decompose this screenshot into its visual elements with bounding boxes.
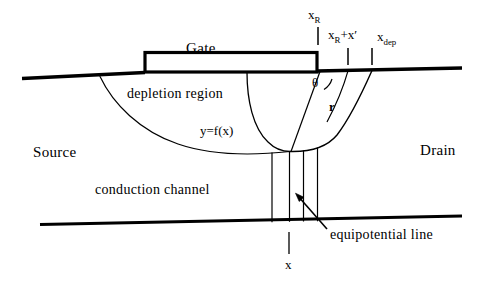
substrate-line — [40, 216, 462, 225]
x-R-subscript: R — [315, 15, 321, 25]
conduction-channel-label: conduction channel — [95, 183, 210, 197]
radius-label: r — [329, 100, 335, 113]
equipotential-line-label: equipotential line — [330, 228, 433, 242]
drain-label: Drain — [420, 143, 456, 158]
x-R-plus-x-prime-label: xR+x′ — [328, 28, 357, 44]
theta-angle-arc — [324, 79, 332, 90]
x-R-plus-suffix: +x′ — [340, 27, 357, 42]
curve-equation-label: y=f(x) — [200, 124, 233, 137]
figure-root: Gate depletion region y=f(x) Source Drai… — [0, 0, 494, 281]
depletion-region-label: depletion region — [127, 87, 223, 101]
equipotential-pointer-arrow — [296, 193, 328, 229]
x-position-label: x — [285, 258, 292, 271]
depletion-boundary-inner — [247, 73, 290, 152]
surface-line-left — [22, 73, 145, 79]
x-dep-subscript: dep — [384, 37, 397, 47]
gate-label: Gate — [186, 41, 216, 56]
x-dep-label: xdep — [377, 30, 396, 46]
source-label: Source — [33, 145, 76, 160]
x-R-label: xR — [308, 8, 320, 24]
surface-line-right — [317, 68, 462, 71]
ray-line-secondary — [327, 71, 348, 122]
gate-electrode — [145, 53, 317, 73]
theta-angle-label: θ — [312, 76, 318, 89]
